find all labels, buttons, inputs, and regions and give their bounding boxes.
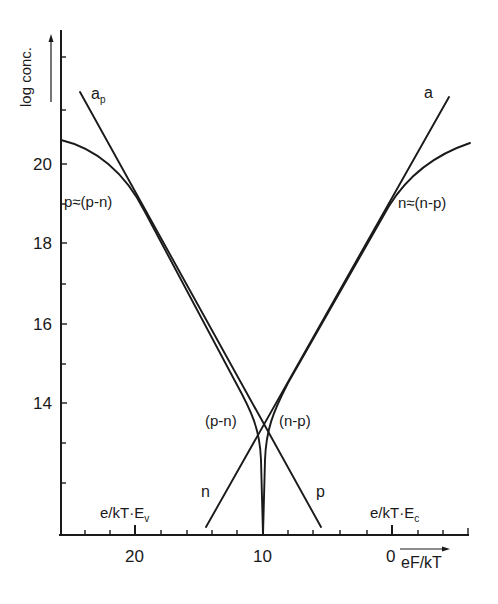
label-p: p — [316, 484, 325, 500]
x-axis-ticks — [85, 525, 468, 535]
label-n-approx: n≈(n-p) — [398, 195, 446, 210]
y-tick-20: 20 — [33, 156, 52, 173]
label-a-p-sub: p — [100, 94, 106, 105]
y-axis-label: log conc. — [18, 35, 40, 107]
label-ev-sub: v — [144, 513, 149, 524]
label-p-minus-n: (p-n) — [205, 413, 237, 428]
label-ev-main: e/kT·E — [100, 504, 144, 521]
series-a-p-line — [80, 92, 321, 527]
x-tick-10: 10 — [253, 548, 272, 565]
label-ec-sub: c — [414, 513, 419, 524]
label-ev: e/kT·Ev — [100, 505, 149, 520]
label-ec-main: e/kT·E — [370, 504, 414, 521]
label-a-p: ap — [91, 86, 105, 102]
x-tick-20: 20 — [125, 548, 144, 565]
label-a: a — [424, 85, 433, 101]
x-tick-0: 0 — [386, 548, 395, 565]
label-p-approx: p≈(p-n) — [64, 194, 112, 209]
x-label-arrow-icon — [400, 547, 450, 552]
y-tick-14: 14 — [33, 395, 52, 412]
y-tick-18: 18 — [33, 235, 52, 252]
y-tick-16: 16 — [33, 316, 52, 333]
label-n-minus-p: (n-p) — [279, 413, 311, 428]
label-a-p-main: a — [91, 85, 100, 102]
y-label-arrow-icon — [49, 34, 54, 102]
label-n: n — [201, 484, 210, 500]
label-ec: e/kT·Ec — [370, 505, 419, 520]
x-axis-label: eF/kT — [401, 555, 442, 571]
